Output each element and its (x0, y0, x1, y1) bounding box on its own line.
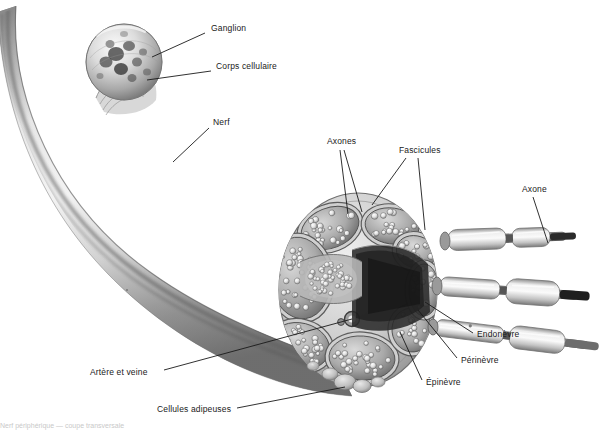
myelinated-axon-2 (432, 273, 590, 308)
axon-cross-section (364, 368, 370, 374)
axon-cross-section (335, 350, 341, 356)
axon-cross-section (342, 343, 346, 347)
axon-cross-section (336, 265, 340, 269)
label-fascicules: Fascicules (399, 145, 441, 155)
axon-cross-section (313, 286, 317, 290)
axon-cross-section (335, 284, 340, 289)
axon-cross-section (328, 291, 332, 295)
leader-ganglion (152, 33, 205, 57)
axon-cross-section (328, 270, 333, 275)
axon-cross-section (422, 328, 427, 333)
axon-cross-section (356, 351, 362, 357)
axon-cross-section (323, 274, 329, 280)
axon-cross-section (364, 341, 369, 346)
axon-cross-section (310, 282, 314, 286)
axon-cross-section (278, 250, 283, 255)
label-endonevre: Endonèvre (477, 329, 519, 339)
label-epinevre: Épinèvre (426, 377, 461, 387)
axon-cross-section (275, 258, 280, 263)
myelinated-axon-1 (440, 225, 576, 250)
axon-cross-section (370, 362, 377, 369)
axon-cross-section (318, 290, 322, 294)
figure-bottom-caption: Nerf périphérique — coupe transversale (0, 422, 616, 431)
axon-cross-section (385, 358, 391, 364)
label-artere-et-veine: Artère et veine (90, 367, 148, 377)
label-axone: Axone (522, 184, 547, 194)
axon-cross-section (323, 281, 328, 286)
axon-cross-section (274, 260, 279, 265)
axon-cross-section (342, 350, 348, 356)
axon-cross-section (364, 355, 371, 362)
axon-cross-section (428, 271, 435, 278)
label-axones: Axones (327, 136, 356, 146)
leader-nerf (173, 128, 209, 162)
axon-cross-section (379, 365, 384, 370)
label-nerf: Nerf (213, 117, 230, 127)
axon-cross-section (407, 332, 411, 336)
axon-cross-section (308, 274, 314, 280)
axon-cross-section (346, 358, 353, 365)
axon-cross-section (330, 264, 333, 267)
axon-cross-section (372, 372, 377, 377)
label-corps-cellulaire: Corps cellulaire (216, 61, 277, 71)
axon-cross-section (275, 331, 282, 338)
axon-cross-section (320, 269, 324, 273)
leader-fascicules-b (418, 158, 425, 230)
illustration-canvas: GanglionCorps cellulaireNerfAxonesFascic… (0, 0, 616, 431)
leader-fascicules-a (372, 158, 406, 205)
axon-cross-section (316, 277, 320, 281)
axon-cross-section (354, 360, 359, 365)
axon-cross-section (337, 274, 342, 279)
axon-cross-section (324, 262, 329, 267)
axon-cross-section (333, 268, 337, 272)
leader-cellules-adipeuses (237, 387, 345, 408)
ganglion-sphere (86, 24, 162, 100)
axon-cross-section (346, 283, 352, 289)
axon-cross-section (375, 346, 380, 351)
label-perinevre: Périnèvre (461, 355, 499, 365)
label-cellules-adipeuses: Cellules adipeuses (157, 404, 231, 414)
axon-cross-section (345, 366, 351, 372)
label-ganglion: Ganglion (211, 23, 246, 33)
axon-cross-section (310, 269, 315, 274)
